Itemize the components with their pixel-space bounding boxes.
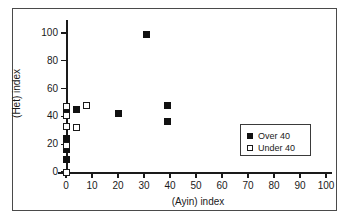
x-tick [117,173,118,178]
filled-square-icon [247,133,253,139]
data-point [73,106,80,113]
x-tick [169,173,170,178]
data-point [63,123,70,130]
x-tick [195,173,196,178]
data-point [164,118,171,125]
y-tick-label: 0 [24,167,58,177]
x-tick [325,173,326,178]
y-tick-label: 40 [24,111,58,121]
data-point [63,156,70,163]
legend-entry-over-40: Over 40 [247,130,290,142]
data-point [73,124,80,131]
legend-entry-under-40: Under 40 [247,142,295,154]
plot-area: 020406080100 0102030405060708090100 (Het… [0,0,348,221]
legend-label: Over 40 [258,131,290,141]
x-tick [143,173,144,178]
data-point [143,31,150,38]
open-square-icon [247,145,253,151]
x-tick-label: 100 [311,181,341,191]
x-tick [247,173,248,178]
y-tick [61,88,66,89]
data-point [164,102,171,109]
data-point [63,142,70,149]
legend-label: Under 40 [258,143,295,153]
x-axis-title: (Ayin) index [128,196,268,207]
y-tick-label: 100 [24,28,58,38]
y-tick-label: 20 [24,139,58,149]
y-axis-title: (Het) index [11,54,22,134]
data-point [63,135,70,142]
x-tick [299,173,300,178]
x-tick [91,173,92,178]
x-tick [273,173,274,178]
y-tick-label: 60 [24,84,58,94]
data-point [63,103,70,110]
x-tick [221,173,222,178]
y-tick [61,60,66,61]
data-point [63,169,70,176]
data-point [83,102,90,109]
y-tick-label: 80 [24,56,58,66]
legend: Over 40 Under 40 [240,124,311,156]
data-point [115,110,122,117]
data-point [63,112,70,119]
y-tick [61,32,66,33]
figure: 020406080100 0102030405060708090100 (Het… [0,0,348,221]
